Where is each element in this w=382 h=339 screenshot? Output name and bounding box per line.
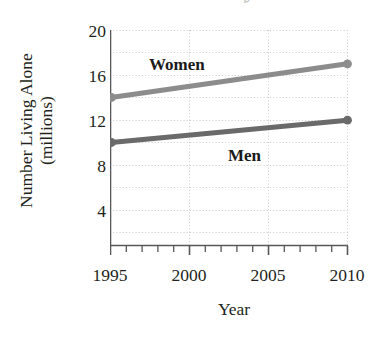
vertical-gridlines	[190, 30, 348, 246]
y-axis-title: Number Living Alone (millions)	[0, 0, 72, 262]
plot-area	[110, 30, 358, 255]
x-tick-label-2005: 2005	[233, 267, 303, 285]
series-line-women	[110, 59, 352, 102]
y-axis-title-line-2: (millions)	[36, 54, 56, 209]
x-tick-label-2000: 2000	[154, 267, 224, 285]
line-chart-figure: Number Living Alone (millions) 20 16 12 …	[0, 0, 382, 339]
y-tick-label-4: 4	[72, 203, 106, 221]
x-tick-label-2010: 2010	[312, 267, 382, 285]
series-label-men: Men	[228, 147, 261, 164]
x-axis-major-ticks	[111, 246, 348, 255]
x-axis-title: Year	[110, 299, 358, 320]
x-axis-tick-labels: 1995 2000 2005 2010	[110, 267, 358, 293]
y-tick-label-12: 12	[72, 113, 106, 131]
data-point-men-1995	[110, 138, 116, 147]
y-tick-label-16: 16	[72, 68, 106, 86]
y-tick-label-20: 20	[72, 23, 106, 41]
x-tick-label-1995: 1995	[75, 267, 145, 285]
y-axis-title-line-1: Number Living Alone	[15, 54, 35, 209]
data-point-men-2010	[343, 116, 352, 125]
y-axis-tick-labels: 20 16 12 8 4	[66, 30, 106, 255]
plot-svg	[110, 30, 358, 255]
x-axis-minor-ticks	[126, 246, 331, 252]
data-point-women-2010	[343, 59, 352, 68]
series-label-women: Women	[149, 56, 205, 73]
y-tick-label-8: 8	[72, 158, 106, 176]
